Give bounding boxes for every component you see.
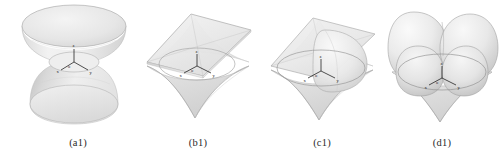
- axis-label-z-b1: z: [196, 49, 198, 54]
- axis-label-x-b1: x: [180, 73, 183, 78]
- top-cap-a1: [22, 5, 126, 47]
- panel-b1: z x y o (b1): [133, 0, 263, 154]
- surface-plot-a1: z x y o: [8, 0, 148, 130]
- axis-label-z-a1: z: [73, 43, 75, 48]
- axis-label-x-c1: x: [304, 78, 307, 83]
- panel-a1: z x y o (a1): [8, 0, 148, 154]
- surface-plot-d1: z x y o: [378, 0, 500, 130]
- panel-d1: z x y o (d1): [378, 0, 500, 154]
- caption-d1: (d1): [378, 137, 500, 149]
- surface-plot-c1: z x y o: [255, 0, 389, 130]
- lobe-front-right-d1: [442, 46, 488, 96]
- axis-label-z-d1: z: [441, 61, 443, 66]
- figure-panel-row: z x y o (a1): [0, 0, 500, 154]
- lobe-front-left-d1: [396, 46, 444, 96]
- caption-c1: (c1): [255, 137, 389, 149]
- axis-label-z-c1: z: [320, 54, 322, 59]
- surface-plot-b1: z x y o: [133, 0, 263, 130]
- bottom-rim-a1: [30, 85, 118, 123]
- panel-c1: z x y o (c1): [255, 0, 389, 154]
- caption-b1: (b1): [133, 137, 263, 149]
- caption-a1: (a1): [8, 137, 148, 149]
- axis-label-y-b1: y: [212, 73, 215, 78]
